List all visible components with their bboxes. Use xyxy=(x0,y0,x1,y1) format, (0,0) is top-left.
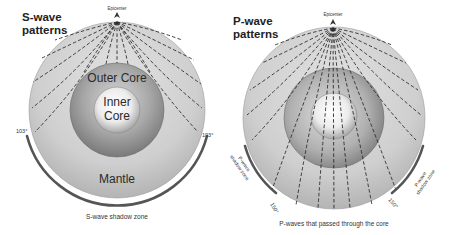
inner-core-label-line2: Core xyxy=(104,109,130,123)
p-epicenter-star-icon xyxy=(330,19,336,25)
s-wave-panel: S-wave patterns Epicenter Outer Core Inn xyxy=(16,6,213,220)
inner-core-label-line1: Inner xyxy=(103,95,130,109)
s-wave-title-line1: S-wave xyxy=(22,11,62,23)
seismic-wave-diagram: S-wave patterns Epicenter Outer Core Inn xyxy=(0,0,455,235)
s-angle-left: 103° xyxy=(16,128,27,134)
p-wave-title-line2: patterns xyxy=(233,28,278,40)
outer-core-label: Outer Core xyxy=(87,71,147,85)
p-wave-panel: P-wave patterns Epicenter xyxy=(229,12,436,228)
epicenter-star-icon xyxy=(114,12,120,18)
s-wave-title-line2: patterns xyxy=(22,24,67,36)
p-wave-title-line1: P-wave xyxy=(233,15,273,27)
p-angle-right: 150° xyxy=(387,197,399,210)
mantle-label: Mantle xyxy=(99,172,135,186)
s-epicenter-label: Epicenter xyxy=(107,6,127,11)
p-angle-left: 150° xyxy=(269,202,280,215)
s-wave-caption: S-wave shadow zone xyxy=(86,213,148,220)
s-angle-right: 103° xyxy=(202,132,213,138)
p-epicenter-label: Epicenter xyxy=(323,12,343,17)
p-wave-caption: P-waves that passed through the core xyxy=(279,220,389,228)
